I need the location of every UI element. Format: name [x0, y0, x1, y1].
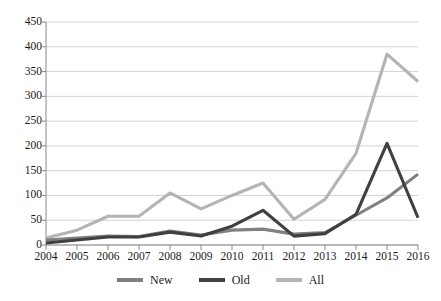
x-axis-label-group: 2004200520062007200820092010201120122013…: [46, 249, 418, 267]
y-tick-label: 200: [2, 140, 42, 152]
legend-item-all[interactable]: All: [276, 274, 324, 286]
y-tick-label: 300: [2, 90, 42, 102]
y-tick-label: 50: [2, 214, 42, 226]
line-chart: 050100150200250300350400450 200420052006…: [0, 0, 441, 301]
chart-legend: NewOldAll: [0, 270, 441, 290]
y-tick-label: 150: [2, 165, 42, 177]
series-lines: [46, 22, 418, 245]
legend-label: Old: [232, 274, 250, 286]
y-tick-label: 450: [2, 16, 42, 28]
y-tick-label: 400: [2, 41, 42, 53]
plot-area: [46, 22, 418, 245]
x-tick-label: 2016: [396, 249, 440, 263]
legend-label: New: [150, 274, 173, 286]
legend-swatch-old-icon: [199, 278, 225, 282]
y-tick-label: 100: [2, 189, 42, 201]
y-tick-label: 250: [2, 115, 42, 127]
legend-item-old[interactable]: Old: [199, 274, 250, 286]
y-tick-label: 350: [2, 66, 42, 78]
legend-label: All: [309, 274, 324, 286]
series-line-new: [46, 174, 418, 240]
legend-swatch-all-icon: [276, 278, 302, 282]
series-line-old: [46, 143, 418, 243]
legend-swatch-new-icon: [117, 278, 143, 282]
legend-item-new[interactable]: New: [117, 274, 173, 286]
